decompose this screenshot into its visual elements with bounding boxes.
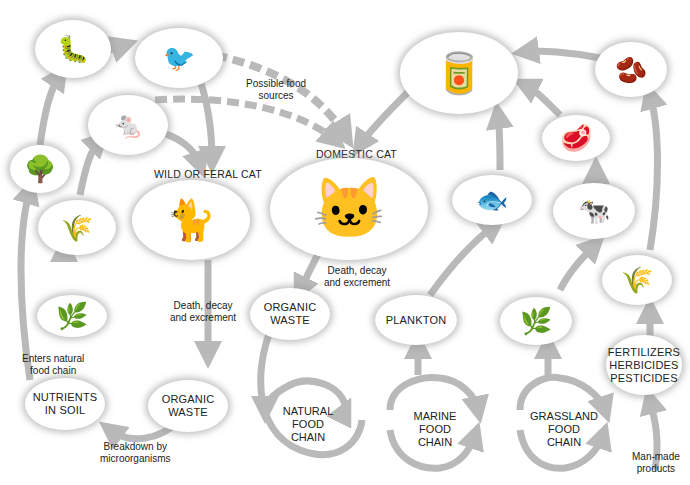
nutrients-in-soil-node: NUTRIENTS IN SOIL: [25, 378, 105, 430]
grass-right-node: 🌿: [500, 297, 572, 345]
wheat-node: 🌾: [602, 255, 672, 305]
wheat-icon: 🌾: [621, 267, 653, 293]
grass-left-node: 🌿: [37, 295, 107, 337]
organic-waste-mid-node: ORGANIC WASTE: [250, 288, 330, 340]
grassland-food-chain-label: GRASSLAND FOOD CHAIN: [528, 410, 600, 449]
mouse-node: 🐁: [88, 95, 168, 155]
caterpillar-icon: 🐛: [57, 36, 89, 62]
fertilizers-node: FERTILIZERS HERBICIDES PESTICIDES: [606, 335, 682, 395]
wild-cat-label: WILD OR FERAL CAT: [154, 168, 262, 180]
meat-icon: 🥩: [560, 125, 592, 151]
tree-icon: 🌳: [24, 156, 56, 182]
grains-node: 🫘: [595, 42, 667, 97]
breakdown-by-microorganisms-text: Breakdown by microorganisms: [100, 441, 171, 465]
tree-node: 🌳: [10, 145, 70, 193]
cat-food-node: 🥫: [400, 32, 518, 114]
death-decay-mid-text: Death, decay and excrement: [324, 265, 390, 289]
cow-icon: 🐄: [578, 198, 610, 224]
enters-natural-food-chain-text: Enters natural food chain: [22, 353, 84, 377]
seeds-icon: 🌾: [61, 215, 93, 241]
seeds-node: 🌾: [38, 200, 116, 255]
cow-node: 🐄: [553, 183, 635, 239]
natural-food-chain-label: NATURAL FOOD CHAIN: [278, 405, 338, 444]
domestic-cat-icon: 🐱: [312, 179, 387, 239]
domestic-cat-node: 🐱: [270, 158, 428, 260]
organic-waste-mid-label: ORGANIC WASTE: [264, 301, 317, 327]
nutrients-in-soil-label: NUTRIENTS IN SOIL: [33, 391, 98, 417]
fertilizers-label: FERTILIZERS HERBICIDES PESTICIDES: [608, 346, 680, 385]
bird-node: 🐦: [135, 28, 223, 88]
plankton-label: PLANKTON: [386, 314, 447, 327]
grass-icon: 🌿: [56, 303, 88, 329]
marine-food-chain-label: MARINE FOOD CHAIN: [405, 410, 465, 449]
organic-waste-left-label: ORGANIC WASTE: [162, 393, 215, 419]
man-made-products-text: Man-made products: [632, 451, 680, 475]
plankton-node: PLANKTON: [375, 295, 457, 345]
death-decay-left-text: Death, decay and excrement: [170, 300, 236, 324]
mouse-icon: 🐁: [112, 112, 144, 138]
possible-food-sources-text: Possible food sources: [246, 78, 306, 102]
cat-food-icon: 🥫: [434, 53, 484, 93]
caterpillar-node: 🐛: [35, 20, 111, 78]
grain-icon: 🫘: [615, 57, 647, 83]
wild-cat-icon: 🐈: [166, 200, 216, 240]
fish-icon: 🐟: [476, 187, 508, 213]
fish-node: 🐟: [452, 175, 532, 225]
grass-icon: 🌿: [520, 308, 552, 334]
organic-waste-left-node: ORGANIC WASTE: [148, 380, 228, 432]
wild-cat-node: 🐈: [132, 180, 250, 260]
bird-icon: 🐦: [163, 45, 195, 71]
meat-node: 🥩: [542, 115, 610, 161]
